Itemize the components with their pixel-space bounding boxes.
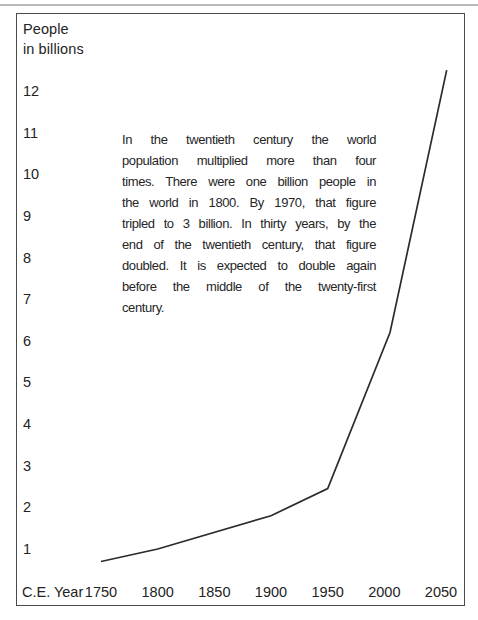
- annotation-line-7: doubled. It is expected to double again: [122, 255, 376, 276]
- y-tick-label-5: 5: [23, 374, 53, 390]
- scanned-chart-page: { "colors": { "background": "#ffffff", "…: [0, 0, 478, 620]
- y-tick-label-7: 7: [23, 291, 53, 307]
- x-axis-title: C.E. Year: [22, 584, 83, 600]
- x-tick-label-1800: 1800: [136, 584, 180, 600]
- y-tick-label-2: 2: [23, 499, 53, 515]
- annotation-line-5: tripled to 3 billion. In thirty years, b…: [122, 213, 376, 234]
- x-tick-label-1750: 1750: [79, 584, 123, 600]
- y-tick-label-4: 4: [23, 416, 53, 432]
- y-tick-label-10: 10: [23, 166, 53, 182]
- annotation-paragraph: In the twentieth century the worldpopula…: [122, 129, 376, 318]
- annotation-line-9: century.: [122, 297, 376, 318]
- y-tick-label-9: 9: [23, 208, 53, 224]
- x-tick-label-2050: 2050: [419, 584, 463, 600]
- x-tick-label-2000: 2000: [362, 584, 406, 600]
- annotation-line-4: the world in 1800. By 1970, that figure: [122, 192, 376, 213]
- y-tick-label-11: 11: [23, 125, 53, 141]
- y-tick-label-3: 3: [23, 458, 53, 474]
- annotation-line-2: population multiplied more than four: [122, 150, 376, 171]
- y-tick-label-1: 1: [23, 541, 53, 557]
- annotation-line-3: times. There were one billion people in: [122, 171, 376, 192]
- y-axis-unit-label: People in billions: [23, 19, 84, 59]
- y-axis-unit-label-line1: People: [23, 19, 84, 39]
- scan-artifact-rule: [0, 4, 478, 6]
- y-tick-label-6: 6: [23, 333, 53, 349]
- x-tick-label-1850: 1850: [192, 584, 236, 600]
- annotation-line-6: end of the twentieth century, that figur…: [122, 234, 376, 255]
- y-axis-unit-label-line2: in billions: [23, 39, 84, 59]
- x-tick-label-1950: 1950: [306, 584, 350, 600]
- x-tick-label-1900: 1900: [249, 584, 293, 600]
- y-tick-label-12: 12: [23, 83, 53, 99]
- y-tick-label-8: 8: [23, 250, 53, 266]
- annotation-line-8: before the middle of the twenty-first: [122, 276, 376, 297]
- annotation-line-1: In the twentieth century the world: [122, 129, 376, 150]
